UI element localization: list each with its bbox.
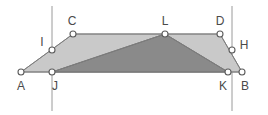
vertex-H [229, 47, 235, 53]
vertex-label-B: B [241, 80, 249, 92]
vertex-label-K: K [219, 80, 227, 92]
vertex-L [162, 31, 168, 37]
vertex-label-C: C [68, 15, 77, 27]
vertex-K [225, 69, 231, 75]
geometry-figure: ABCDHIJKL [0, 0, 268, 115]
vertex-A [18, 69, 24, 75]
vertex-label-D: D [216, 15, 225, 27]
vertex-C [70, 31, 76, 37]
vertex-label-J: J [52, 80, 58, 92]
vertex-J [49, 69, 55, 75]
vertex-B [239, 69, 245, 75]
vertex-I [49, 47, 55, 53]
vertex-D [217, 31, 223, 37]
vertex-label-L: L [162, 15, 169, 27]
vertex-label-H: H [240, 39, 249, 51]
vertex-label-I: I [40, 36, 43, 48]
vertex-label-A: A [17, 80, 25, 92]
figure-canvas [0, 0, 268, 115]
